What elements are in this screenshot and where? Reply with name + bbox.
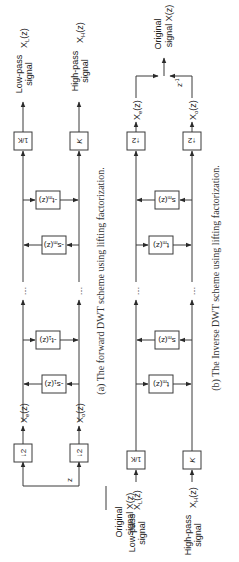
ellipsis-bottom: … bbox=[74, 287, 84, 296]
s1-label: -s1(z) bbox=[44, 379, 63, 389]
output-low-line2: signal bbox=[24, 62, 34, 86]
output-label-line2: signal X(z) bbox=[164, 5, 174, 48]
panel-b-inverse-dwt: Low-pass signal XL(z) High-pass signal X… bbox=[127, 5, 222, 556]
tm-label: -tm(z) bbox=[38, 195, 57, 205]
caption-b: (b) The Inverse DWT scheme using lifting… bbox=[210, 165, 222, 391]
scale-k-label-b: K bbox=[188, 457, 197, 463]
input-label-line1: Original bbox=[114, 506, 124, 537]
output-low-line1: Low-pass bbox=[14, 54, 24, 93]
input-low-line2: signal bbox=[137, 521, 147, 545]
delay-z-label: z bbox=[65, 478, 74, 482]
figure-canvas: Original signal X(z) z ↓2 ↓2 Xe(z) Xo(z)… bbox=[0, 0, 239, 562]
scale-k-label: K bbox=[75, 138, 84, 144]
input-high-line2: signal bbox=[193, 523, 203, 547]
output-label-line1: Original bbox=[153, 18, 163, 49]
sm-label: -sm(z) bbox=[44, 240, 65, 250]
scale-inv-k-label: 1/K bbox=[17, 137, 28, 144]
output-high-symbol: XH(z) bbox=[75, 22, 86, 43]
output-low-symbol: XL(z) bbox=[19, 28, 30, 48]
ellipsis-top: … bbox=[18, 287, 28, 296]
ellipsis-top-b: … bbox=[131, 287, 141, 296]
caption-a: (a) The forward DWT scheme using lifting… bbox=[95, 167, 107, 394]
scale-inv-k-label-b: 1/K bbox=[130, 456, 141, 463]
input-low-symbol: XL(z) bbox=[132, 490, 143, 510]
ellipsis-bottom-b: … bbox=[187, 287, 197, 296]
dwt-lifting-figure: Original signal X(z) z ↓2 ↓2 Xe(z) Xo(z)… bbox=[0, 0, 239, 562]
sm-label-b-2: sm(z) bbox=[158, 195, 176, 205]
even-signal-label-b: Xe(z) bbox=[132, 100, 143, 120]
panel-a-forward-dwt: Original signal X(z) z ↓2 ↓2 Xe(z) Xo(z)… bbox=[14, 22, 135, 537]
delay-z-inv-label: z-1 bbox=[174, 78, 184, 87]
upsampler-top-label: ↑2 bbox=[131, 136, 140, 145]
sm-label-b-1: sm(z) bbox=[158, 335, 176, 345]
odd-signal-label: Xo(z) bbox=[75, 403, 86, 423]
output-high-line1: High-pass bbox=[70, 50, 80, 91]
input-high-line1: High-pass bbox=[183, 514, 193, 555]
upsampler-bottom-label: ↑2 bbox=[187, 136, 196, 145]
t1-label: -t1(z) bbox=[39, 335, 56, 345]
downsampler-top-label: ↓2 bbox=[19, 448, 28, 457]
input-low-line1: Low-pass bbox=[127, 513, 137, 552]
output-high-line2: signal bbox=[80, 59, 90, 83]
even-signal-label: Xe(z) bbox=[19, 403, 30, 423]
input-high-symbol: XH(z) bbox=[188, 487, 199, 508]
downsampler-bottom-label: ↓2 bbox=[75, 448, 84, 457]
odd-signal-label-b: Xo(z) bbox=[188, 100, 199, 120]
